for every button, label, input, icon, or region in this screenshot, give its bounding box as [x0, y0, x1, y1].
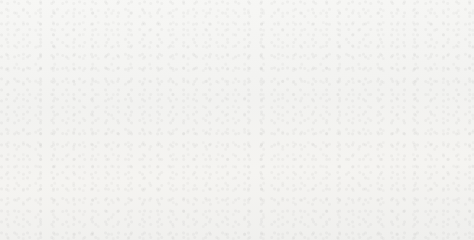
x-label-2010年: 2010年 [395, 214, 439, 228]
bar-series-dark-2006年 [169, 74, 190, 206]
x-label-2006年: 2006年 [168, 214, 212, 228]
bar-group [169, 14, 211, 206]
bar-value-label: 23.6% [30, 129, 62, 139]
bar-series-light-2008年 [303, 95, 324, 206]
x-label-2004年: 2004年 [55, 214, 99, 228]
y-tick-label: 30% [20, 118, 38, 128]
y-tick [40, 151, 44, 152]
bar-series-light-2007年 [247, 98, 268, 206]
bar-group [113, 14, 155, 206]
bar-series-dark-2009年 [339, 84, 360, 206]
bar-series-light-2006年 [190, 108, 211, 206]
bar-value-label: 48.0% [119, 62, 151, 72]
bar-value-label: 41.9% [313, 79, 345, 89]
bar-value-label: 44.5% [175, 72, 207, 82]
bar-value-label: 57.8% [6, 35, 38, 45]
y-tick-label: 50% [20, 63, 38, 73]
y-tick [40, 41, 44, 42]
bar-group [282, 14, 324, 206]
x-axis-line [44, 206, 456, 207]
y-tick-label: 10% [20, 173, 38, 183]
y-axis-line [44, 14, 45, 207]
bar-series-light-2004年 [77, 141, 98, 206]
bar-value-label: 41.7% [345, 80, 377, 90]
y-tick-label: 20% [20, 145, 38, 155]
y-tick-label: 0 [33, 200, 38, 210]
x-label-2009年: 2009年 [338, 214, 382, 228]
x-label-2005年: 2005年 [112, 214, 156, 228]
bar-group [339, 14, 381, 206]
y-tick [40, 206, 44, 207]
bar-series-dark-2007年 [226, 84, 247, 206]
x-label-2007年: 2007年 [225, 214, 269, 228]
bar-value-label: 30.4% [86, 111, 118, 121]
bar-group [226, 14, 268, 206]
y-tick-label: 70% [20, 8, 38, 18]
y-tick [40, 179, 44, 180]
bar-series-dark-2005年 [113, 65, 134, 206]
bar-group [396, 14, 438, 206]
x-tick [329, 207, 330, 211]
bar-group [56, 14, 98, 206]
x-tick [272, 207, 273, 211]
bar-series-dark-2010年 [396, 92, 417, 206]
x-tick [386, 207, 387, 211]
x-axis-end-tick [455, 203, 456, 207]
bar-series-light-2005年 [134, 123, 155, 206]
y-tick [40, 14, 44, 15]
bar-series-dark-2004年 [56, 47, 77, 206]
bar-value-label: 40.5% [256, 83, 288, 93]
y-tick [40, 124, 44, 125]
bar-series-dark-2008年 [282, 88, 303, 206]
x-tick [159, 207, 160, 211]
bar-value-label: 35.7% [143, 96, 175, 106]
y-tick [40, 69, 44, 70]
bar-value-label: 39.5% [199, 86, 231, 96]
x-tick [103, 207, 104, 211]
x-tick [216, 207, 217, 211]
y-tick [40, 96, 44, 97]
y-tick-label: 40% [20, 90, 38, 100]
bar-value-label: 45.1% [369, 70, 401, 80]
bar-series-light-2009年 [360, 91, 381, 206]
x-label-2008年: 2008年 [281, 214, 325, 228]
bar-value-label: 51.5% [62, 53, 94, 63]
bar-chart: 010%20%30%40%50%60%70% 2004年2005年2006年20… [0, 0, 474, 240]
bar-series-light-2010年 [417, 82, 438, 206]
